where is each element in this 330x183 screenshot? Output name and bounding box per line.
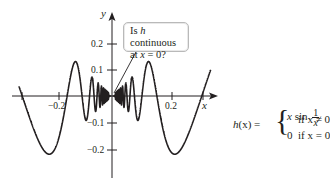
formula-condition-1: if x ≠ 0 [298, 113, 330, 125]
callout-line-1: Is h continuous [130, 25, 188, 49]
continuity-question-callout: Is h continuous at x = 0? [123, 22, 189, 52]
y-axis-label: y [100, 7, 106, 19]
x-tick-label: 0.2 [165, 101, 177, 111]
formula-case-2: 0 [287, 129, 293, 141]
x-tick-label: −0.2 [48, 101, 65, 111]
y-tick-label: −0.1 [87, 118, 104, 128]
formula-condition-2: if x = 0 [298, 129, 330, 141]
y-tick-label: 0.2 [91, 39, 103, 49]
x-axis-label: x [201, 99, 207, 111]
callout-line-2: at x = 0? [130, 49, 188, 61]
formula-lhs: h(x) = [233, 118, 260, 130]
y-tick-label: 0.1 [91, 65, 103, 75]
y-tick-label: −0.2 [87, 145, 104, 155]
